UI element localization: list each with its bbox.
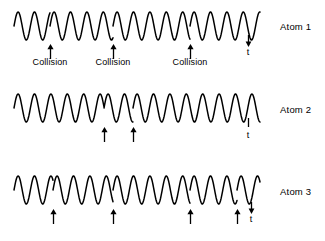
wave-trace [0, 170, 325, 210]
collision-arrow-up-icon [128, 127, 139, 142]
atom-label: Atom 3 [280, 186, 311, 197]
arrow-head [234, 209, 240, 214]
arrow-head [50, 209, 56, 214]
collision-arrow-up-icon [185, 209, 196, 224]
collision-label: Collision [33, 57, 68, 67]
wave-path [14, 12, 260, 40]
wave-path [14, 94, 260, 122]
collision-arrow-up-icon [232, 209, 243, 224]
arrow-head [130, 127, 136, 132]
wave-trace [0, 6, 325, 46]
collision-label: Collision [173, 57, 208, 67]
atom-label: Atom 2 [280, 104, 311, 115]
collision-arrow-up-icon [48, 209, 59, 224]
arrow-head [110, 44, 116, 49]
wave-path [14, 176, 260, 204]
arrow-head [101, 127, 107, 132]
arrow-head [110, 209, 116, 214]
arrow-head [187, 44, 193, 49]
time-marker-label: t [250, 214, 253, 224]
arrow-head [187, 209, 193, 214]
atom-label: Atom 1 [280, 21, 311, 32]
wave-trace [0, 88, 325, 128]
collision-label: Collision [96, 57, 131, 67]
atomic-collision-waveform-figure: CollisionCollisionCollisiontAtom 1tAtom … [0, 0, 325, 241]
time-marker-label: t [247, 130, 250, 140]
time-marker-label: t [247, 47, 250, 57]
arrow-head [47, 44, 53, 49]
collision-arrow-up-icon [99, 127, 110, 142]
collision-arrow-up-icon [108, 209, 119, 224]
